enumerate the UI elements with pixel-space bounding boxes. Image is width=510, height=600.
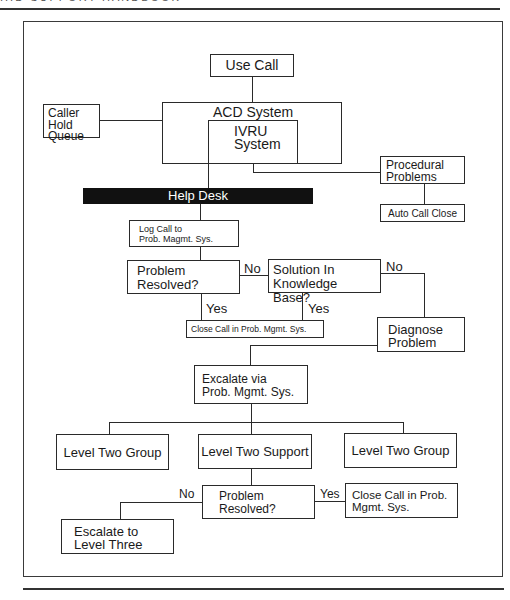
edge-label-pr1-no: No xyxy=(244,262,261,275)
connector-pr2-no xyxy=(120,502,202,503)
page-header-fragment: ...D SUPPORT HANDBOOK xyxy=(0,0,181,3)
edge-label-pr1-yes: Yes xyxy=(206,302,227,315)
node-diagnose-problem: Diagnose Problem xyxy=(377,317,465,352)
connector-pr2-yes xyxy=(315,501,345,502)
node-solution-in-kb: Solution In Knowledge Base? xyxy=(268,259,381,293)
node-level-two-group-right: Level Two Group xyxy=(344,433,457,468)
top-rule xyxy=(0,8,500,10)
node-acd-system-label: ACD System xyxy=(213,106,293,119)
node-excalate-via: Excalate via Prob. Mgmt. Sys. xyxy=(194,365,308,404)
node-close-call-2: Close Call in Prob. Mgmt. Sys. xyxy=(345,483,458,518)
connector-diagnose-left xyxy=(250,345,377,346)
connector-queue-acd xyxy=(100,120,162,121)
connector-helpdesk-log xyxy=(200,204,201,220)
connector-level-two-bus xyxy=(109,422,404,423)
node-close-call-1: Close Call in Prob. Mgmt. Sys. xyxy=(186,320,324,338)
connector-diagnose-excalate xyxy=(250,345,251,365)
connector-support-pr2 xyxy=(251,469,252,485)
node-level-two-support: Level Two Support xyxy=(198,434,312,469)
node-log-call: Log Call to Prob. Magmt. Sys. xyxy=(129,220,239,247)
connector-bus-right xyxy=(403,422,404,433)
connector-procedural-auto xyxy=(424,183,425,204)
connector-usecall-acd xyxy=(252,76,253,103)
edge-label-kb-no: No xyxy=(386,260,403,273)
node-auto-call-close: Auto Call Close xyxy=(380,204,465,222)
connector-ivru-helpdesk xyxy=(208,163,209,188)
node-problem-resolved-2: Problem Resolved? xyxy=(202,485,315,519)
node-ivru-system: IVRU System xyxy=(208,120,298,164)
connector-excalate-down xyxy=(251,404,252,434)
node-use-call: Use Call xyxy=(210,54,294,77)
connector-bus-left xyxy=(109,422,110,434)
bottom-rule xyxy=(23,588,504,590)
connector-log-pr1 xyxy=(200,247,201,260)
node-level-two-group-left: Level Two Group xyxy=(56,434,169,470)
edge-label-kb-yes: Yes xyxy=(308,302,329,315)
connector-acd-procedural xyxy=(253,172,380,173)
edge-label-pr2-yes: Yes xyxy=(320,488,340,501)
connector-pr2-escalate xyxy=(120,502,121,519)
node-problem-resolved-1: Problem Resolved? xyxy=(127,260,240,294)
node-help-desk: Help Desk xyxy=(83,188,313,204)
edge-label-pr2-no: No xyxy=(179,488,194,501)
connector-pr1-close xyxy=(201,294,202,320)
connector-kb-diagnose xyxy=(424,273,425,317)
node-procedural-problems: Procedural Problems xyxy=(380,156,465,184)
node-caller-hold-queue: Caller Hold Queue xyxy=(43,104,100,138)
node-escalate-level-three: Escalate to Level Three xyxy=(61,519,174,554)
